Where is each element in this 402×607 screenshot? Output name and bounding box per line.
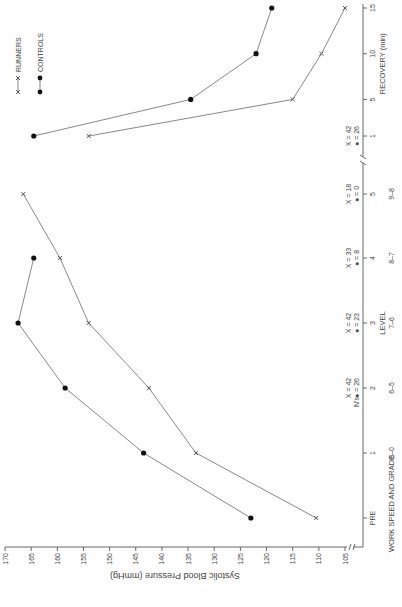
n-controls: ● = 26 — [353, 126, 360, 146]
y-tick-label: 135 — [185, 553, 192, 565]
speed-grade-label: 7–6 — [388, 317, 395, 329]
speed-grade-label: 8–7 — [388, 252, 395, 264]
data-point-controls — [31, 255, 36, 260]
data-point-controls — [63, 385, 68, 390]
x-tick-label: 15 — [369, 4, 376, 12]
n-runners: X = 42 — [345, 313, 352, 334]
y-tick-label: 130 — [211, 553, 218, 565]
x-tick-label: 3 — [369, 321, 376, 325]
x-tick-label: PRE — [369, 510, 376, 525]
speed-grade-label: 6–5 — [388, 382, 395, 394]
axis-labels: Systolic Blood Pressure (mmHg) WORK SPEE… — [110, 33, 396, 581]
y-tick-label: 115 — [289, 553, 296, 564]
speed-grade-label: 9–8 — [388, 188, 395, 200]
x-tick-label: 1 — [369, 134, 376, 138]
y-tick-label: 160 — [54, 553, 61, 565]
y-tick-label: 110 — [315, 553, 322, 564]
legend-controls: CONTROLS — [37, 33, 44, 72]
axes: 1051101151201251301351401451501551601651… — [2, 4, 396, 565]
x-tick-label: 10 — [369, 50, 376, 58]
y-tick-label: 120 — [263, 553, 270, 565]
legend-runners: RUNNERS — [15, 37, 22, 72]
x-tick-label: 4 — [369, 256, 376, 260]
n-runners: X = 42 — [345, 126, 352, 147]
series-markers — [15, 5, 347, 520]
legend: RUNNERSCONTROLS — [15, 33, 44, 95]
x-tick-label: 1 — [369, 451, 376, 455]
y-tick-label: 145 — [132, 553, 139, 565]
x-axis-label-recovery: RECOVERY (min) — [378, 33, 387, 94]
data-point-controls — [15, 320, 20, 325]
y-tick-label: 170 — [2, 553, 9, 565]
y-tick-label: 150 — [106, 553, 113, 565]
chart-container: 1051101151201251301351401451501551601651… — [0, 0, 402, 607]
n-runners: X = 42 — [345, 378, 352, 399]
n-runners: X = 33 — [345, 248, 352, 269]
n-runners: X = 18 — [345, 184, 352, 205]
n-controls: ● = 26 — [353, 378, 360, 398]
data-point-controls — [269, 5, 274, 10]
data-point-controls — [31, 133, 36, 138]
blood-pressure-chart: 1051101151201251301351401451501551601651… — [0, 0, 402, 607]
x-tick-label: 5 — [369, 97, 376, 101]
n-controls: ● = 8 — [353, 250, 360, 266]
series-line-controls — [34, 8, 272, 136]
x-axis-label-work: WORK SPEED AND GRADE — [387, 455, 396, 552]
x-tick-label: 2 — [369, 386, 376, 390]
series-line-controls — [18, 258, 251, 518]
series-line-runners — [89, 8, 345, 136]
y-tick-label: 125 — [237, 553, 244, 565]
x-tick-label: 5 — [369, 192, 376, 196]
y-axis-label: Systolic Blood Pressure (mmHg) — [110, 571, 240, 581]
y-tick-label: 165 — [28, 553, 35, 565]
y-tick-label: 155 — [80, 553, 87, 565]
data-point-controls — [248, 515, 253, 520]
n-controls: ● = 0 — [353, 186, 360, 202]
data-point-controls — [253, 51, 258, 56]
data-point-controls — [141, 450, 146, 455]
y-tick-label: 105 — [342, 553, 349, 565]
data-point-controls — [188, 97, 193, 102]
n-annotations: N'sX = 42● = 26X = 42● = 23X = 33● = 8X … — [345, 126, 360, 407]
x-axis-label-level: LEVEL — [378, 311, 387, 334]
y-tick-label: 140 — [158, 553, 165, 565]
n-controls: ● = 23 — [353, 313, 360, 333]
series-lines — [18, 8, 345, 518]
